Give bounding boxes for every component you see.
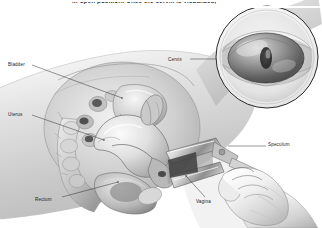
label-bladder: Bladder: [8, 62, 25, 67]
illustration-canvas: [0, 0, 322, 228]
label-uterus: Uterus: [8, 112, 22, 117]
label-cervix: Cervix: [168, 57, 182, 62]
speculum-examination-figure: in open position. Once the cervix is vis…: [0, 0, 322, 228]
label-rectum: Rectum: [35, 197, 52, 202]
label-vagina: Vagina: [196, 199, 211, 204]
label-speculum: Speculum: [268, 142, 290, 147]
inset-external-os: [260, 47, 272, 69]
speculum-thumbscrew: [219, 149, 225, 155]
